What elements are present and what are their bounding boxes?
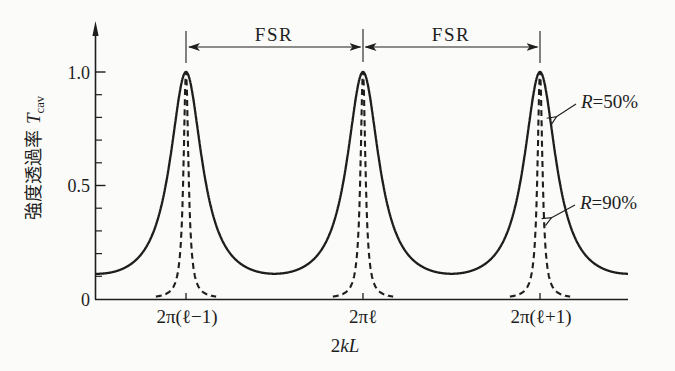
- r90-series-label: R=90%: [579, 192, 637, 213]
- curve-r90-dashed: [156, 72, 570, 297]
- x-tick-label-2pi-l: 2πℓ: [349, 306, 377, 327]
- y-tick-label-1_0: 1.0: [68, 63, 91, 83]
- y-tick-label-0: 0: [81, 290, 90, 310]
- r50-series-label: R=50%: [580, 91, 638, 112]
- x-axis-ticks: [186, 293, 540, 299]
- r50-leader-arrow-icon: [556, 104, 576, 117]
- chart-canvas: FSR FSR R=50% R=90% 0 0.5 1.0 2π(ℓ−1) 2π…: [0, 0, 675, 371]
- r90-leader-arrow-icon: [551, 205, 575, 218]
- y-tick-label-0_5: 0.5: [68, 176, 91, 196]
- x-axis-title: 2kL: [331, 335, 360, 356]
- y-axis-arrowhead-icon: [92, 21, 98, 36]
- fsr-label-left: FSR: [255, 24, 293, 45]
- y-axis-title: 強度透過率Tcav: [23, 95, 47, 220]
- fsr-label-right: FSR: [432, 24, 470, 45]
- fabry-perot-transmittance-figure: FSR FSR R=50% R=90% 0 0.5 1.0 2π(ℓ−1) 2π…: [0, 0, 675, 371]
- x-tick-label-2pi-l-plus-1: 2π(ℓ+1): [510, 306, 571, 328]
- y-axis-ticks: [96, 72, 106, 276]
- x-tick-label-2pi-l-minus-1: 2π(ℓ−1): [156, 306, 217, 328]
